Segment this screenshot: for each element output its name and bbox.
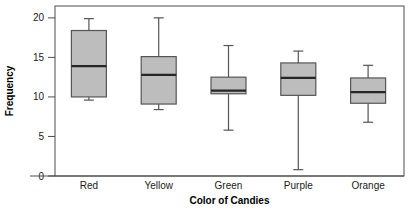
box-yellow	[141, 57, 176, 104]
x-category-label-purple: Purple	[284, 180, 313, 191]
box-purple	[281, 63, 316, 95]
box-red	[71, 31, 106, 97]
chart-canvas: 05101520 RedYellowGreenPurpleOrange Colo…	[0, 0, 412, 222]
y-axis-title: Frequency	[4, 65, 15, 116]
x-category-label-red: Red	[80, 180, 98, 191]
x-axis: RedYellowGreenPurpleOrange	[30, 176, 404, 191]
y-tick-label: 10	[33, 91, 45, 102]
boxplot-chart: 05101520 RedYellowGreenPurpleOrange Colo…	[0, 0, 412, 222]
x-category-label-yellow: Yellow	[144, 180, 173, 191]
x-category-label-orange: Orange	[351, 180, 385, 191]
y-tick-label: 15	[33, 52, 45, 63]
y-tick-label: 5	[38, 131, 44, 142]
box-series	[71, 18, 385, 170]
x-axis-title: Color of Candies	[189, 195, 269, 206]
y-axis: 05101520	[33, 12, 55, 181]
y-tick-label: 20	[33, 12, 45, 23]
box-orange	[351, 78, 386, 103]
x-category-label-green: Green	[215, 180, 243, 191]
